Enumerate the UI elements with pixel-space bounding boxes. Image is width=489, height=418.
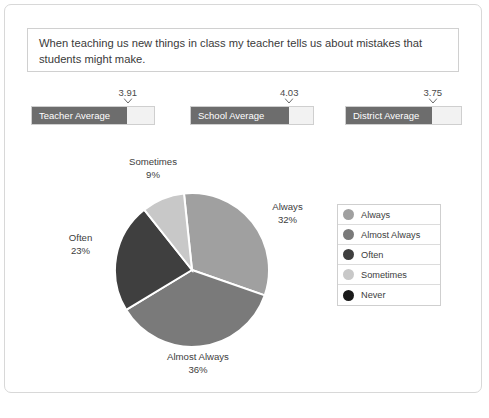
legend-item-often: Often (338, 245, 440, 265)
pie-callout-always: Always 32% (250, 200, 325, 226)
gauge-value: 4.03 (280, 87, 299, 98)
pie-callout-percent: 9% (108, 168, 198, 181)
legend-swatch-icon (343, 249, 354, 260)
chevron-down-icon (428, 98, 437, 104)
pie-chart-svg (113, 191, 271, 349)
chevron-down-icon (285, 98, 294, 104)
pie-callout-percent: 32% (250, 213, 325, 226)
gauge-teacher-average: Teacher Average 3.91 (31, 106, 155, 125)
legend-swatch-icon (343, 229, 354, 240)
legend-item-sometimes: Sometimes (338, 265, 440, 285)
legend-label: Often (361, 250, 383, 260)
pie-callout-label: Always (250, 200, 325, 213)
report-panel: When teaching us new things in class my … (4, 4, 482, 393)
pie-callout-label: Almost Always (133, 350, 263, 363)
chevron-down-icon (123, 98, 132, 104)
pie-chart (113, 191, 271, 349)
pie-callout-sometimes: Sometimes 9% (108, 155, 198, 181)
gauge-value: 3.91 (118, 87, 137, 98)
gauge-school-average: School Average 4.03 (190, 106, 314, 125)
gauge-district-average: District Average 3.75 (345, 106, 462, 125)
gauge-label: Teacher Average (39, 106, 110, 125)
pie-callout-almost-always: Almost Always 36% (133, 350, 263, 376)
legend-label: Almost Always (361, 230, 420, 240)
legend-item-always: Always (338, 205, 440, 225)
legend-item-almost-always: Almost Always (338, 225, 440, 245)
gauge-label: School Average (198, 106, 264, 125)
legend-swatch-icon (343, 269, 354, 280)
legend-label: Sometimes (361, 270, 407, 280)
gauge-label: District Average (353, 106, 419, 125)
legend-swatch-icon (343, 290, 354, 301)
pie-callout-percent: 36% (133, 363, 263, 376)
chart-legend: Always Almost Always Often Sometimes Nev… (337, 204, 441, 306)
pie-callout-often: Often 23% (43, 231, 118, 257)
gauge-value: 3.75 (424, 87, 443, 98)
pie-callout-label: Sometimes (108, 155, 198, 168)
legend-label: Never (361, 290, 386, 300)
question-box: When teaching us new things in class my … (27, 28, 459, 72)
legend-item-never: Never (338, 285, 440, 305)
pie-callout-label: Often (43, 231, 118, 244)
legend-label: Always (361, 210, 390, 220)
question-text: When teaching us new things in class my … (39, 36, 447, 67)
pie-callout-percent: 23% (43, 244, 118, 257)
legend-swatch-icon (343, 209, 354, 220)
